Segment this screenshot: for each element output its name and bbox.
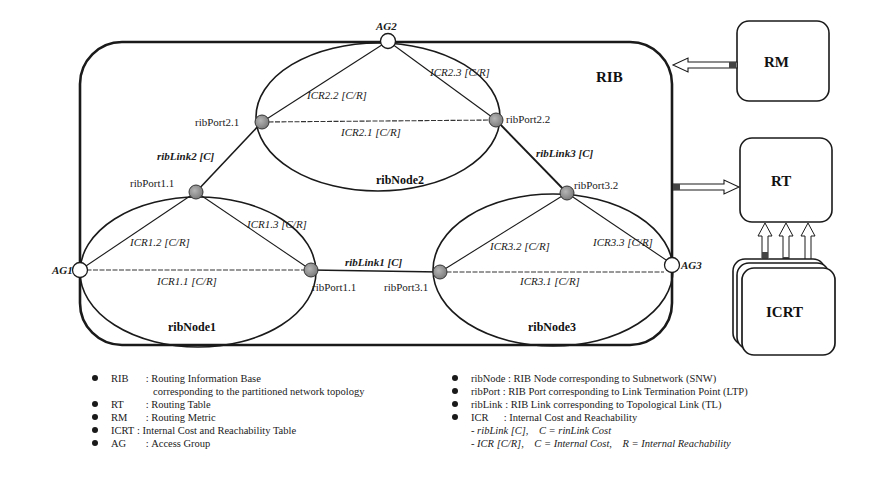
icr13-line — [196, 192, 311, 270]
icr32-line — [440, 193, 567, 272]
icr12-label: ICR1.2 [C/R] — [129, 236, 190, 248]
legend-sep: : — [501, 411, 509, 424]
legend-item-rib-cont: corresponding to the partitioned network… — [92, 385, 364, 398]
ribnode1-label: ribNode1 — [168, 320, 216, 334]
ribport2-1-label: ribPort2.1 — [195, 116, 239, 128]
legend-left: RIB : Routing Information Base correspon… — [92, 372, 364, 450]
icr22-line — [262, 41, 388, 122]
ribport1-1-right-label: ribPort1.1 — [312, 281, 356, 293]
ag1-circle — [73, 263, 88, 278]
legend-item-ag: AG : Access Group — [92, 437, 364, 450]
icr21-label: ICR2.1 [C/R] — [340, 126, 401, 138]
ribnode2-label: ribNode2 — [376, 173, 424, 187]
legend-key: AG — [111, 437, 143, 450]
legend-item-ribnode: ribNode : RIB Node corresponding to Subn… — [452, 372, 748, 385]
ag3-circle — [665, 258, 680, 273]
rt-label: RT — [771, 173, 791, 189]
legend-sep: : — [500, 385, 508, 398]
rm-to-rib-arrow — [673, 58, 737, 72]
rib-to-rt-arrow — [673, 180, 739, 194]
icr33-label: ICR3.3 [C/R] — [592, 236, 653, 248]
legend-note: - ribLink [C], C = rinLink Cost — [471, 424, 611, 437]
legend-sep: : — [505, 372, 513, 385]
riblink1-line — [311, 270, 440, 272]
ribport1-1-right-dot — [304, 263, 318, 277]
riblink3-label: ribLink3 [C] — [536, 147, 593, 159]
legend-key: ribNode — [471, 372, 505, 385]
bullet-icon — [92, 427, 98, 433]
legend-text: Routing Metric — [151, 411, 215, 424]
riblink2-label: ribLink2 [C] — [157, 150, 214, 162]
icr23-line — [388, 41, 496, 120]
legend-item-rt: RT : Routing Table — [92, 398, 364, 411]
ag3-label: AG3 — [680, 259, 702, 271]
bullet-icon — [452, 388, 458, 394]
rib-title: RIB — [596, 69, 623, 85]
ag1-label: AG1 — [51, 264, 73, 276]
bullet-icon — [452, 414, 458, 420]
ribnode3-label: ribNode3 — [528, 320, 576, 334]
ribport1-1-top-label: ribPort1.1 — [130, 177, 174, 189]
legend-item-icr: ICR : Internal Cost and Reachability — [452, 411, 748, 424]
icr12-line — [80, 192, 196, 270]
legend-key: ICRT — [111, 424, 134, 437]
icr22-label: ICR2.2 [C/R] — [306, 89, 367, 101]
icr11-label: ICR1.1 [C/R] — [156, 275, 217, 287]
bullet-icon — [92, 414, 98, 420]
legend-text: RIB Node corresponding to Subnetwork (SN… — [514, 372, 717, 385]
legend-sep: : — [143, 437, 151, 450]
legend-item-ribport: ribPort : RIB Port corresponding to Link… — [452, 385, 748, 398]
legend-key: RT — [111, 398, 143, 411]
legend-item-riblink: ribLink : RIB Link corresponding to Topo… — [452, 398, 748, 411]
legend-sep: : — [143, 411, 151, 424]
legend-item-rm: RM : Routing Metric — [92, 411, 364, 424]
ribport2-1-dot — [255, 115, 269, 129]
ribport3-2-dot — [560, 186, 574, 200]
ag2-circle — [381, 34, 396, 49]
legend-sep: : — [143, 398, 151, 411]
legend-key: RIB — [111, 372, 143, 385]
ribport1-1-top-dot — [189, 185, 203, 199]
legend-item-icrt: ICRT : Internal Cost and Reachability Ta… — [92, 424, 364, 437]
legend-note-icr: - ICR [C/R], C = Internal Cost, R = Inte… — [452, 437, 748, 450]
ribport2-2-dot — [489, 113, 503, 127]
legend-key: ribLink — [471, 398, 503, 411]
icr33-line — [567, 193, 672, 264]
icr13-label: ICR1.3 [C/R] — [246, 218, 307, 230]
legend-right: ribNode : RIB Node corresponding to Subn… — [452, 372, 748, 450]
bullet-icon — [452, 375, 458, 381]
legend-key: ribPort — [471, 385, 500, 398]
legend-sep: : — [503, 398, 511, 411]
ag2-label: AG2 — [375, 20, 397, 32]
bullet-icon — [92, 440, 98, 446]
legend-text: RIB Port corresponding to Link Terminati… — [508, 385, 747, 398]
bullet-icon — [92, 401, 98, 407]
bullet-icon — [452, 401, 458, 407]
icr31-label: ICR3.1 [C/R] — [519, 275, 580, 287]
legend-text: RIB Link corresponding to Topological Li… — [511, 398, 722, 411]
legend-text: Routing Information Base — [151, 372, 261, 385]
icr32-label: ICR3.2 [C/R] — [489, 240, 550, 252]
legend-sep: : — [134, 424, 142, 437]
icr23-label: ICR2.3 [C/R] — [429, 66, 490, 78]
legend-text: Internal Cost and Reachability — [509, 411, 637, 424]
icr21-line — [262, 120, 496, 122]
legend-sep: : — [143, 372, 151, 385]
bullet-icon — [92, 375, 98, 381]
legend-key: RM — [111, 411, 143, 424]
legend-note: - ICR [C/R], C = Internal Cost, R = Inte… — [471, 437, 731, 450]
rib-container — [80, 42, 672, 345]
icrt-label: ICRT — [766, 304, 803, 320]
riblink1-label: ribLink1 [C] — [345, 256, 402, 268]
legend-key: ICR — [471, 411, 501, 424]
legend-text: Internal Cost and Reachability Table — [142, 424, 296, 437]
legend-text: corresponding to the partitioned network… — [153, 385, 364, 398]
ribport3-1-dot — [433, 265, 447, 279]
ribport3-2-label: ribPort3.2 — [574, 179, 618, 191]
legend-note-riblink: - ribLink [C], C = rinLink Cost — [452, 424, 748, 437]
legend-item-rib: RIB : Routing Information Base — [92, 372, 364, 385]
ribport3-1-label: ribPort3.1 — [384, 281, 428, 293]
legend-text: Routing Table — [151, 398, 210, 411]
legend-text: Access Group — [151, 437, 210, 450]
ribport2-2-label: ribPort2.2 — [506, 113, 550, 125]
